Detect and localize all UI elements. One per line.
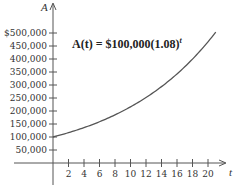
x-tick-label: 4 (81, 169, 87, 179)
y-tick-label: 300,000 (10, 80, 47, 90)
x-tick-label: 8 (112, 169, 118, 179)
x-tick-label: 18 (187, 169, 199, 179)
y-tick-label: $500,000 (4, 28, 47, 38)
exponential-growth-chart: 50,000100,000150,000200,000250,000300,00… (0, 0, 238, 195)
y-axis-label: A (40, 1, 48, 13)
x-tick-label: 2 (66, 169, 72, 179)
y-tick-label: 450,000 (10, 41, 47, 51)
y-tick-label: 100,000 (10, 132, 47, 142)
y-tick-label: 50,000 (16, 145, 48, 155)
x-tick-label: 14 (156, 169, 168, 179)
y-tick-label: 200,000 (10, 106, 47, 116)
y-tick-label: 400,000 (10, 54, 47, 64)
x-axis-label: t (229, 166, 233, 178)
x-tick-label: 20 (202, 169, 214, 179)
x-tick-label: 16 (171, 169, 183, 179)
x-tick-label: 10 (125, 169, 137, 179)
x-tick-label: 12 (140, 169, 151, 179)
y-tick-label: 150,000 (10, 119, 47, 129)
formula-annotation: A(t) = $100,000(1.08)t (72, 36, 182, 51)
y-tick-label: 250,000 (10, 93, 47, 103)
x-tick-label: 6 (97, 169, 103, 179)
y-tick-label: 350,000 (10, 67, 47, 77)
